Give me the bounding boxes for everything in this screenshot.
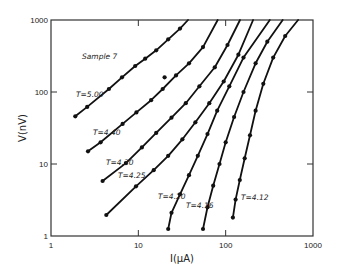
data-point [120, 75, 124, 79]
data-point [254, 61, 258, 65]
data-point [217, 162, 221, 166]
curve-label-t425: T=4.25 [118, 171, 146, 180]
data-point [241, 90, 245, 94]
data-point [134, 184, 138, 188]
x-tick-label: 100 [219, 241, 233, 250]
data-point [196, 154, 200, 158]
curve-label-t420: T=4.20 [158, 192, 186, 201]
curve-500 [73, 20, 188, 118]
data-point [241, 56, 245, 60]
data-point [99, 140, 103, 144]
y-tick-label: 10 [39, 160, 48, 169]
plot-axes: 11010010001000100101 [30, 16, 322, 250]
data-point [133, 64, 137, 68]
data-point [215, 109, 219, 113]
data-point [134, 110, 138, 114]
data-point [154, 131, 158, 135]
data-point [121, 122, 125, 126]
data-point [187, 61, 191, 65]
data-point [161, 87, 165, 91]
data-point [265, 40, 269, 44]
y-tick-label: 1 [44, 232, 49, 241]
data-point [207, 101, 211, 105]
data-point [169, 211, 173, 215]
curve-label-t412: T=4.12 [241, 193, 269, 202]
data-point [149, 98, 153, 102]
curve-label-t440: T=4.40 [93, 128, 121, 137]
data-point [201, 45, 205, 49]
data-point [166, 37, 170, 41]
data-point [271, 56, 275, 60]
data-point [283, 34, 287, 38]
data-point [231, 216, 235, 220]
data-point [85, 105, 89, 109]
data-point [174, 73, 178, 77]
curve-label-t500: T=5.00 [76, 90, 104, 99]
sample-label: Sample 7 [82, 52, 118, 61]
y-axis-label: V(nV) [17, 114, 28, 142]
data-point [169, 116, 173, 120]
data-point [224, 140, 228, 144]
outlier-point [163, 75, 167, 79]
y-tick-label: 100 [35, 88, 49, 97]
data-point [225, 43, 229, 47]
data-point [143, 57, 147, 61]
data-point [227, 84, 231, 88]
data-point [166, 154, 170, 158]
data-point [211, 184, 215, 188]
x-tick-label: 10 [134, 241, 143, 250]
data-point [104, 213, 108, 217]
data-point [234, 198, 238, 202]
data-point [178, 27, 182, 31]
data-point [166, 227, 170, 231]
x-tick-label: 1000 [304, 241, 322, 250]
data-point [193, 120, 197, 124]
data-point [222, 79, 226, 83]
data-point [86, 149, 90, 153]
data-point [187, 173, 191, 177]
data-point [140, 145, 144, 149]
data-point [261, 82, 265, 86]
data-point [236, 53, 240, 57]
data-point [197, 84, 201, 88]
data-point [154, 48, 158, 52]
data-point [73, 114, 77, 118]
data-point [152, 168, 156, 172]
data-point [213, 65, 217, 69]
data-point [201, 227, 205, 231]
data-point [248, 133, 252, 137]
data-point [184, 101, 188, 105]
data-point [238, 178, 242, 182]
data-point [107, 87, 111, 91]
data-point [180, 137, 184, 141]
curve-label-t430: T=4.30 [106, 158, 134, 167]
data-point [205, 132, 209, 136]
x-tick-label: 1 [49, 241, 54, 250]
data-point [101, 179, 105, 183]
y-tick-label: 1000 [30, 16, 48, 25]
data-point [243, 156, 247, 160]
curve-425 [104, 20, 253, 217]
data-point [232, 115, 236, 119]
data-point [254, 109, 258, 113]
x-axis-label: I(μA) [170, 253, 194, 264]
curve-label-t416: T=4.16 [186, 201, 214, 210]
iv-log-log-chart: 11010010001000100101 Sample 7 I(μA) V(nV… [0, 0, 337, 271]
